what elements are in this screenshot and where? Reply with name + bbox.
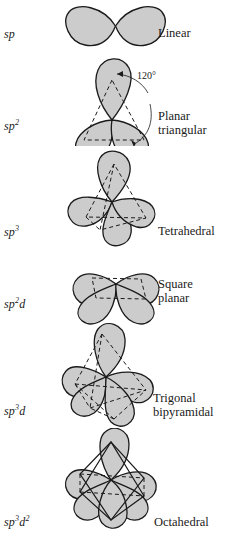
hybrid-base: sp	[4, 27, 15, 41]
hybrid-base: sp	[4, 297, 15, 311]
row-sp3d: sp3d Trigonal bipyramidal	[0, 322, 233, 430]
geometry-line-1: Tetrahedral	[158, 224, 215, 238]
diagram-sp3-tetrahedral	[66, 150, 166, 252]
geometry-label-square-planar: Square planar	[158, 278, 193, 305]
geometry-line-1: Linear	[158, 26, 191, 40]
geometry-label-tetrahedral: Tetrahedral	[158, 225, 215, 239]
hybrid-base: sp	[4, 404, 15, 418]
hybrid-base: sp	[4, 225, 15, 239]
row-sp3d2: sp3d2 Octahedral	[0, 428, 233, 538]
hybrid-exponent: 2	[15, 118, 19, 127]
hybrid-label-sp3: sp3	[4, 226, 19, 238]
row-sp: sp Linear	[0, 0, 233, 52]
hybrid-label-sp2: sp2	[4, 120, 19, 132]
geometry-label-octahedral: Octahedral	[154, 516, 209, 530]
hybrid-label-sp: sp	[4, 28, 15, 40]
hybrid-exponent: 3	[15, 224, 19, 233]
geometry-label-planar-triangular: Planar triangular	[158, 110, 207, 137]
geometry-label-linear: Linear	[158, 27, 191, 41]
diagram-sp2-planar-triangular	[72, 48, 164, 150]
hybrid-label-sp3d2: sp3d2	[4, 516, 30, 528]
hybrid-label-sp3d: sp3d	[4, 405, 25, 417]
geometry-line-1: Planar	[158, 109, 190, 123]
hybrid-label-sp2d: sp2d	[4, 298, 25, 310]
hybrid-base2: d	[19, 297, 25, 311]
angle-annotation-120: 120°	[137, 70, 156, 81]
geometry-line-1: Square	[158, 277, 193, 291]
geometry-line-2: triangular	[158, 124, 207, 138]
geometry-line-2: planar	[158, 292, 193, 306]
geometry-line-1: Trigonal	[153, 391, 196, 405]
diagram-sp3d-trigonal-bipyramidal	[58, 322, 166, 434]
geometry-label-trigonal-bipyramidal: Trigonal bipyramidal	[153, 392, 213, 419]
row-sp2: 120° sp2 Planar triangular	[0, 48, 233, 146]
hybrid-base: sp	[4, 119, 15, 133]
row-sp2d: sp2d Square planar	[0, 248, 233, 326]
geometry-line-1: Octahedral	[154, 515, 209, 529]
hybrid-orbital-figure: sp Linear	[0, 0, 233, 538]
hybrid-base: sp	[4, 515, 15, 529]
row-sp3: sp3 Tetrahedral	[0, 150, 233, 248]
hybrid-exponent2: 2	[25, 514, 29, 523]
diagram-sp3d2-octahedral	[58, 428, 166, 537]
hybrid-base2: d	[19, 404, 25, 418]
diagram-sp2d-square-planar	[63, 248, 169, 330]
geometry-line-2: bipyramidal	[153, 406, 213, 420]
